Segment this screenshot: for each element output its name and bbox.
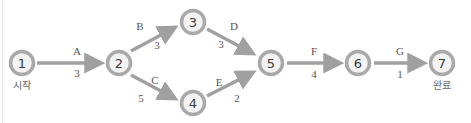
node-1: 1 시작	[11, 52, 34, 92]
node-number: 5	[267, 56, 275, 71]
edge-f: F 4	[287, 45, 339, 80]
edge-duration-label: 4	[311, 68, 317, 80]
edge-duration-label: 3	[74, 67, 80, 79]
node-number: 2	[115, 56, 123, 71]
edge-activity-label: A	[73, 45, 81, 57]
edge-b: B 3	[131, 20, 174, 51]
node-3: 3	[182, 11, 205, 34]
edge-activity-label: D	[230, 20, 238, 32]
edge-duration-label: 3	[218, 38, 224, 50]
network-diagram: A 3 B 3 C 5 D 3 E 2 F 4	[0, 0, 471, 123]
edge-activity-label: G	[396, 45, 404, 57]
edge-activity-label: B	[136, 20, 143, 32]
node-number: 7	[438, 56, 446, 71]
node-2: 2	[108, 52, 131, 75]
edge-duration-label: 3	[154, 39, 160, 51]
arrow-icon	[207, 73, 252, 96]
node-number: 3	[189, 15, 197, 30]
node-5: 5	[260, 52, 283, 75]
finish-caption: 완료	[433, 80, 451, 91]
edge-activity-label: E	[216, 76, 223, 88]
edge-e: E 2	[207, 73, 252, 104]
edge-duration-label: 5	[138, 92, 144, 104]
edge-d: D 3	[207, 20, 252, 53]
edge-activity-label: C	[151, 74, 158, 86]
edge-c: C 5	[131, 74, 174, 104]
edge-a: A 3	[37, 45, 100, 79]
node-4: 4	[182, 92, 205, 115]
diagram-frame: A 3 B 3 C 5 D 3 E 2 F 4	[0, 0, 471, 123]
node-7: 7 완료	[431, 52, 454, 92]
node-number: 6	[354, 56, 362, 71]
start-caption: 시작	[13, 80, 31, 91]
node-6: 6	[347, 52, 370, 75]
node-number: 4	[189, 96, 197, 111]
edge-duration-label: 2	[234, 92, 240, 104]
node-number: 1	[18, 56, 26, 71]
edge-g: G 1	[374, 45, 423, 80]
edge-duration-label: 1	[397, 68, 403, 80]
arrow-icon	[207, 29, 252, 53]
edge-activity-label: F	[311, 45, 317, 57]
